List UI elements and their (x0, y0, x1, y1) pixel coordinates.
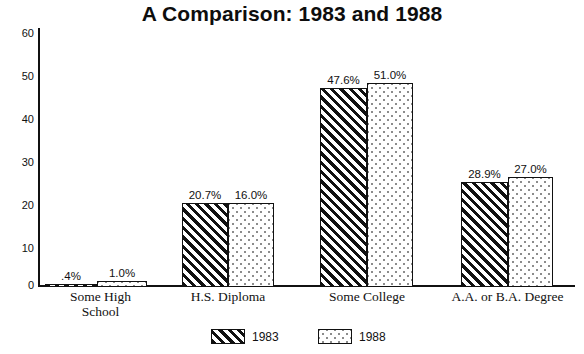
bar-1983-aa-ba-degree[interactable]: 28.9% (461, 182, 508, 287)
bar-group-hs-diploma: 20.7% 16.0% (182, 27, 274, 287)
cat-label-some-high-school: Some High School (38, 289, 163, 319)
legend-item-1983[interactable]: 1983 (211, 329, 279, 344)
bar-1983-some-high-school[interactable]: .4% (45, 284, 97, 287)
cat-label-some-college-line1: Some College (329, 289, 405, 304)
cat-label-aa-ba-degree: A.A. or B.A. Degree (440, 289, 575, 304)
legend-swatch-1988-icon (318, 329, 352, 344)
bar-group-some-high-school: .4% 1.0% (45, 27, 155, 287)
bar-1988-hs-diploma[interactable]: 16.0% (228, 203, 274, 287)
bar-value-1988-aa-ba-degree: 27.0% (514, 163, 547, 175)
cat-label-aa-ba-degree-line1: A.A. or B.A. Degree (451, 289, 563, 304)
cat-label-some-high-school-line2: School (38, 304, 163, 319)
legend-item-1988[interactable]: 1988 (318, 329, 386, 344)
bar-group-aa-ba-degree: 28.9% 27.0% (461, 27, 553, 287)
bar-1983-hs-diploma[interactable]: 20.7% (182, 203, 228, 287)
cat-label-some-college: Some College (311, 289, 423, 304)
bar-value-1983-some-college: 47.6% (327, 74, 360, 86)
bar-value-1983-hs-diploma: 20.7% (189, 189, 222, 201)
bar-value-1983-some-high-school: .4% (61, 270, 81, 282)
bar-group-some-college: 47.6% 51.0% (320, 27, 413, 287)
bar-1988-some-college[interactable]: 51.0% (367, 83, 413, 287)
bar-1988-aa-ba-degree[interactable]: 27.0% (508, 177, 553, 287)
cat-label-some-high-school-line1: Some High (70, 289, 131, 304)
bar-value-1988-some-high-school: 1.0% (109, 267, 135, 279)
cat-label-hs-diploma-line1: H.S. Diploma (191, 289, 266, 304)
legend-label-1983: 1983 (252, 330, 279, 344)
cat-label-hs-diploma: H.S. Diploma (173, 289, 283, 304)
legend-swatch-1983-icon (211, 329, 245, 344)
chart-legend: 1983 1988 (0, 329, 584, 354)
bar-value-1988-some-college: 51.0% (374, 69, 407, 81)
bar-1983-some-college[interactable]: 47.6% (320, 88, 367, 287)
legend-label-1988: 1988 (359, 330, 386, 344)
bar-1988-some-high-school[interactable]: 1.0% (97, 281, 147, 287)
bar-value-1983-aa-ba-degree: 28.9% (468, 168, 501, 180)
x-axis-category-labels: Some High School H.S. Diploma Some Colle… (0, 289, 584, 329)
bar-value-1988-hs-diploma: 16.0% (235, 189, 268, 201)
chart-plot-area: A Comparison: 1983 and 1988 60 50 40 30 … (0, 0, 584, 354)
